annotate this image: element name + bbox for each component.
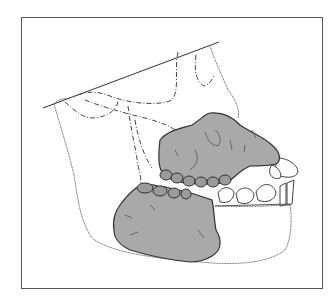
mandible-fossil — [113, 185, 220, 262]
reference-line — [43, 42, 219, 108]
jaw-illustration — [0, 0, 334, 308]
tooth-line — [215, 204, 290, 206]
